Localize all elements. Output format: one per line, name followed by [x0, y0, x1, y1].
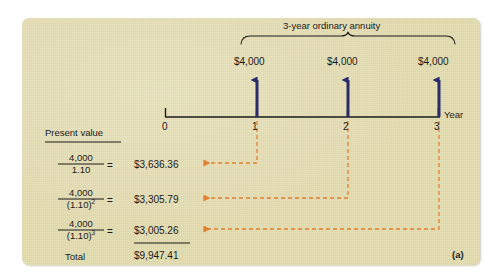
fraction-denominator: (1.10)2	[57, 198, 105, 211]
annuity-timeline-figure: 3-year ordinary annuity $4,000 $4,000 $4…	[0, 0, 501, 278]
fraction-numerator: 4,000	[57, 218, 105, 229]
axis-tick-label-1: 1	[252, 122, 258, 132]
present-value-fraction-3: 4,000 (1.10)3	[57, 218, 105, 242]
annuity-span-label: 3-year ordinary annuity	[283, 21, 380, 31]
figure-part-label: (a)	[452, 250, 464, 260]
axis-tick-label-0: 0	[162, 122, 168, 132]
fraction-denominator: 1.10	[57, 163, 105, 176]
discount-path-year2	[204, 121, 348, 198]
cash-flow-label-year2: $4,000	[327, 57, 358, 67]
axis-unit-label: Year	[444, 110, 463, 120]
present-value-fraction-1: 4,000 1.10	[57, 152, 105, 176]
fraction-denominator: (1.10)3	[57, 229, 105, 242]
present-value-amount-2: $3,305.79	[134, 195, 179, 205]
fraction-exponent: 3	[92, 229, 96, 236]
equals-sign-1: =	[107, 161, 113, 171]
cash-flow-label-year1: $4,000	[234, 57, 265, 67]
annuity-span-brace	[241, 32, 455, 44]
axis-tick-label-2: 2	[343, 122, 349, 132]
fraction-exponent: 2	[92, 198, 96, 205]
discount-path-year3	[204, 121, 439, 229]
fraction-numerator: 4,000	[57, 187, 105, 198]
fraction-numerator: 4,000	[57, 152, 105, 163]
equals-sign-2: =	[107, 196, 113, 206]
discount-paths	[204, 121, 439, 229]
present-value-header: Present value	[45, 128, 103, 138]
present-value-fraction-2: 4,000 (1.10)2	[57, 187, 105, 211]
total-amount: $9,947.41	[134, 251, 179, 261]
cash-flow-arrows	[257, 80, 439, 117]
axis-tick-label-3: 3	[434, 122, 440, 132]
present-value-amount-3: $3,005.26	[134, 226, 179, 236]
discount-path-year1	[204, 121, 257, 163]
total-label: Total	[65, 252, 85, 262]
present-value-amount-1: $3,636.36	[134, 160, 179, 170]
equals-sign-3: =	[107, 227, 113, 237]
cash-flow-label-year3: $4,000	[418, 57, 449, 67]
timeline-axis	[165, 108, 440, 117]
